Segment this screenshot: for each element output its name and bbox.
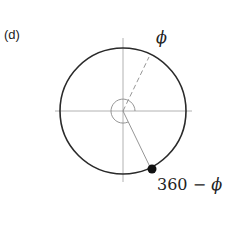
angle-reflected-ray: [123, 111, 151, 169]
phi-label: ϕ: [156, 28, 167, 47]
reflected-angle-symbol: ϕ: [211, 175, 222, 194]
point-marker: [148, 165, 157, 174]
reflected-angle-label: 360 − ϕ: [157, 175, 222, 194]
reflected-angle-prefix: 360 −: [157, 175, 211, 194]
angle-phi-ray: [123, 57, 149, 111]
